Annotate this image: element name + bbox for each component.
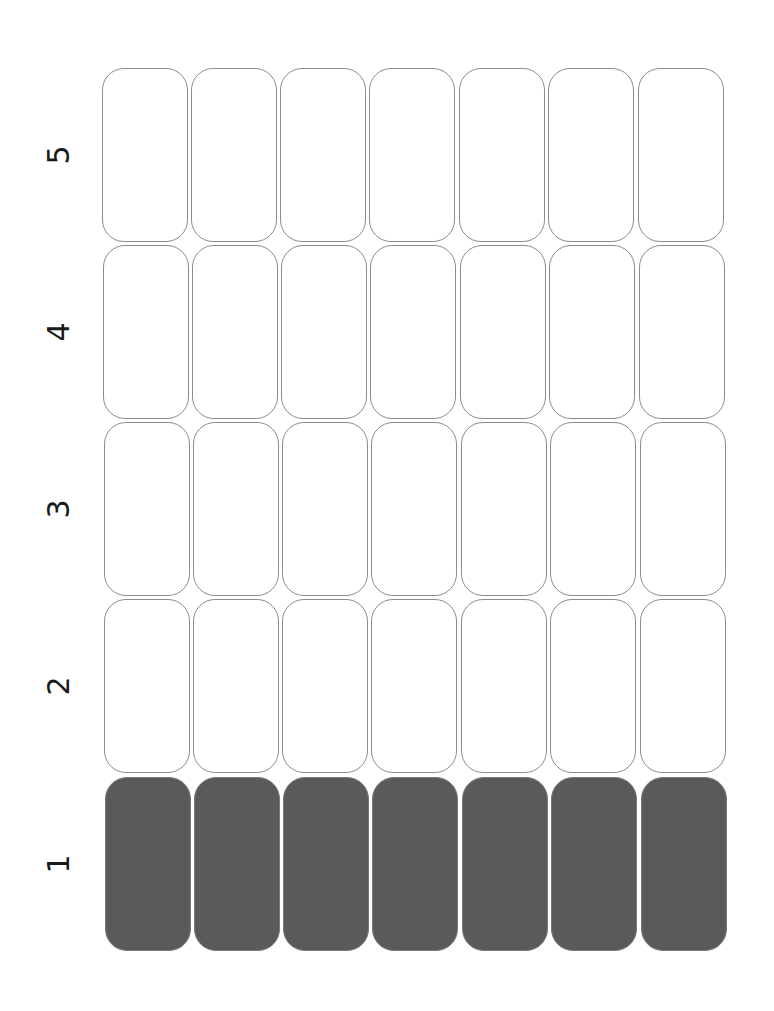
empty-cell [280, 68, 366, 242]
empty-cell [193, 422, 279, 596]
empty-cell [639, 245, 725, 419]
empty-cell [193, 599, 279, 773]
empty-cell [640, 599, 726, 773]
empty-cell [548, 68, 634, 242]
empty-cell [549, 245, 635, 419]
empty-cell [550, 422, 636, 596]
filled-cell [372, 777, 458, 951]
empty-cell [282, 599, 368, 773]
row-label: 5 [28, 125, 88, 185]
empty-cell [369, 68, 455, 242]
empty-cell [192, 245, 278, 419]
empty-cell [460, 245, 546, 419]
empty-cell [370, 245, 456, 419]
filled-cell [462, 777, 548, 951]
empty-cell [459, 68, 545, 242]
row-label: 1 [28, 834, 88, 894]
filled-cell [194, 777, 280, 951]
empty-cell [102, 68, 188, 242]
filled-cell [105, 777, 191, 951]
row-label: 2 [28, 656, 88, 716]
empty-cell [104, 599, 190, 773]
row-label: 3 [28, 479, 88, 539]
empty-cell [638, 68, 724, 242]
empty-cell [461, 599, 547, 773]
empty-cell [104, 422, 190, 596]
empty-cell [640, 422, 726, 596]
empty-cell [371, 599, 457, 773]
empty-cell [371, 422, 457, 596]
filled-cell [641, 777, 727, 951]
empty-cell [550, 599, 636, 773]
empty-cell [191, 68, 277, 242]
row-label: 4 [28, 302, 88, 362]
empty-cell [103, 245, 189, 419]
empty-cell [461, 422, 547, 596]
filled-cell [283, 777, 369, 951]
filled-cell [551, 777, 637, 951]
empty-cell [281, 245, 367, 419]
empty-cell [282, 422, 368, 596]
